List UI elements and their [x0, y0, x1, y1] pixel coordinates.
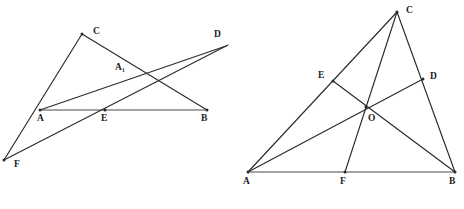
point-label-A-right: A: [243, 177, 250, 187]
vertex-dot-C-left: [81, 33, 84, 36]
point-label-D-right: D: [430, 72, 437, 82]
segment-C-F-right: [345, 12, 397, 172]
point-label-B-right: B: [449, 177, 456, 187]
vertex-dot-F-left: [3, 159, 6, 162]
segment-C-F: [4, 34, 82, 160]
geometry-figure: A B C D E F A₁ A B C D E F O: [0, 0, 464, 209]
point-label-A-left: A: [37, 114, 44, 124]
point-label-F-left: F: [14, 160, 20, 170]
segment-A-D-right: [248, 79, 423, 172]
vertex-dot-A-left: [39, 109, 42, 112]
diagram-canvas: [0, 0, 464, 209]
point-label-D-left: D: [214, 30, 221, 40]
right-diagram-lines: [247, 10, 457, 173]
point-label-E-right: E: [318, 71, 325, 81]
vertex-dot-C-right: [395, 10, 398, 13]
segment-B-C-right: [397, 12, 455, 172]
vertex-dot-E-right: [332, 80, 335, 83]
point-label-E-left: E: [101, 114, 108, 124]
vertex-dot-E-left: [104, 109, 107, 112]
vertex-dot-B-right: [454, 171, 457, 174]
vertex-dot-B-left: [206, 109, 209, 112]
point-label-F-right: F: [340, 177, 346, 187]
segment-A-C-right: [248, 12, 397, 172]
point-label-B-left: B: [201, 114, 208, 124]
vertex-dot-D-right: [422, 78, 425, 81]
point-label-C-left: C: [93, 27, 100, 37]
vertex-dot-O-right: [364, 105, 367, 108]
point-label-A1-left: A₁: [115, 63, 125, 73]
vertex-dot-A-right: [247, 171, 250, 174]
left-diagram-lines: [3, 33, 229, 162]
vertex-dot-F-right: [344, 171, 347, 174]
point-label-O-right: O: [368, 114, 376, 124]
segment-A-D: [40, 46, 226, 110]
point-label-C-right: C: [406, 6, 413, 16]
segment-C-B: [82, 34, 207, 110]
